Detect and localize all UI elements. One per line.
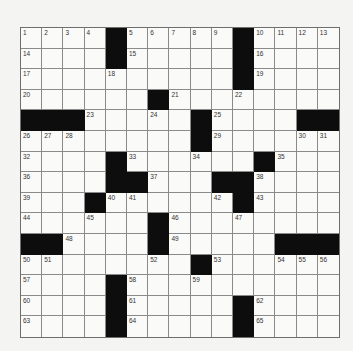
grid-cell[interactable]	[275, 275, 296, 296]
grid-cell[interactable]: 18	[106, 69, 127, 90]
grid-cell[interactable]	[191, 213, 212, 234]
grid-cell[interactable]: 56	[318, 255, 339, 276]
grid-cell[interactable]	[148, 275, 169, 296]
grid-cell[interactable]	[297, 69, 318, 90]
grid-cell[interactable]: 33	[127, 152, 148, 173]
grid-cell[interactable]	[191, 316, 212, 337]
grid-cell[interactable]	[318, 193, 339, 214]
grid-cell[interactable]	[191, 193, 212, 214]
grid-cell[interactable]	[148, 296, 169, 317]
grid-cell[interactable]	[212, 296, 233, 317]
grid-cell[interactable]	[233, 234, 254, 255]
grid-cell[interactable]	[169, 69, 190, 90]
grid-cell[interactable]	[297, 193, 318, 214]
grid-cell[interactable]	[233, 110, 254, 131]
grid-cell[interactable]	[106, 213, 127, 234]
grid-cell[interactable]	[127, 90, 148, 111]
grid-cell[interactable]	[169, 296, 190, 317]
grid-cell[interactable]	[275, 110, 296, 131]
grid-cell[interactable]: 63	[21, 316, 42, 337]
grid-cell[interactable]: 51	[42, 255, 63, 276]
grid-cell[interactable]	[233, 131, 254, 152]
grid-cell[interactable]	[191, 172, 212, 193]
grid-cell[interactable]	[212, 316, 233, 337]
grid-cell[interactable]	[127, 131, 148, 152]
grid-cell[interactable]	[254, 275, 275, 296]
grid-cell[interactable]	[212, 275, 233, 296]
grid-cell[interactable]	[275, 213, 296, 234]
grid-cell[interactable]: 36	[21, 172, 42, 193]
grid-cell[interactable]	[297, 152, 318, 173]
grid-cell[interactable]: 58	[127, 275, 148, 296]
grid-cell[interactable]	[42, 172, 63, 193]
grid-cell[interactable]	[254, 255, 275, 276]
grid-cell[interactable]: 34	[191, 152, 212, 173]
grid-cell[interactable]: 16	[254, 49, 275, 70]
grid-cell[interactable]: 46	[169, 213, 190, 234]
grid-cell[interactable]	[297, 275, 318, 296]
grid-cell[interactable]	[169, 316, 190, 337]
grid-cell[interactable]	[275, 296, 296, 317]
grid-cell[interactable]: 20	[21, 90, 42, 111]
grid-cell[interactable]	[275, 316, 296, 337]
grid-cell[interactable]	[42, 193, 63, 214]
grid-cell[interactable]	[42, 316, 63, 337]
grid-cell[interactable]	[191, 234, 212, 255]
grid-cell[interactable]	[106, 255, 127, 276]
grid-cell[interactable]	[169, 152, 190, 173]
grid-cell[interactable]: 15	[127, 49, 148, 70]
grid-cell[interactable]: 17	[21, 69, 42, 90]
grid-cell[interactable]	[318, 90, 339, 111]
grid-cell[interactable]	[254, 234, 275, 255]
grid-cell[interactable]	[148, 131, 169, 152]
grid-cell[interactable]: 59	[191, 275, 212, 296]
grid-cell[interactable]	[63, 316, 84, 337]
grid-cell[interactable]	[297, 296, 318, 317]
grid-cell[interactable]: 55	[297, 255, 318, 276]
grid-cell[interactable]: 45	[85, 213, 106, 234]
grid-cell[interactable]	[318, 316, 339, 337]
grid-cell[interactable]	[212, 49, 233, 70]
grid-cell[interactable]	[42, 69, 63, 90]
grid-cell[interactable]: 54	[275, 255, 296, 276]
grid-cell[interactable]: 53	[212, 255, 233, 276]
grid-cell[interactable]: 28	[63, 131, 84, 152]
grid-cell[interactable]	[148, 316, 169, 337]
grid-cell[interactable]	[275, 131, 296, 152]
grid-cell[interactable]	[254, 110, 275, 131]
grid-cell[interactable]	[275, 193, 296, 214]
grid-cell[interactable]	[233, 255, 254, 276]
grid-cell[interactable]	[148, 69, 169, 90]
grid-cell[interactable]	[275, 172, 296, 193]
grid-cell[interactable]: 1	[21, 28, 42, 49]
grid-cell[interactable]	[42, 49, 63, 70]
grid-cell[interactable]	[106, 131, 127, 152]
grid-cell[interactable]: 12	[297, 28, 318, 49]
grid-cell[interactable]: 41	[127, 193, 148, 214]
grid-cell[interactable]	[297, 90, 318, 111]
grid-cell[interactable]	[275, 69, 296, 90]
grid-cell[interactable]: 6	[148, 28, 169, 49]
grid-cell[interactable]	[169, 193, 190, 214]
grid-cell[interactable]	[233, 152, 254, 173]
grid-cell[interactable]	[63, 296, 84, 317]
grid-cell[interactable]	[106, 234, 127, 255]
grid-cell[interactable]: 60	[21, 296, 42, 317]
grid-cell[interactable]	[212, 234, 233, 255]
grid-cell[interactable]: 38	[254, 172, 275, 193]
grid-cell[interactable]: 65	[254, 316, 275, 337]
grid-cell[interactable]	[106, 110, 127, 131]
grid-cell[interactable]	[63, 90, 84, 111]
grid-cell[interactable]	[297, 316, 318, 337]
grid-cell[interactable]: 40	[106, 193, 127, 214]
grid-cell[interactable]: 8	[191, 28, 212, 49]
grid-cell[interactable]	[63, 152, 84, 173]
grid-cell[interactable]	[169, 110, 190, 131]
grid-cell[interactable]: 35	[275, 152, 296, 173]
grid-cell[interactable]	[169, 275, 190, 296]
grid-cell[interactable]	[85, 69, 106, 90]
grid-cell[interactable]	[254, 131, 275, 152]
grid-cell[interactable]	[318, 172, 339, 193]
grid-cell[interactable]	[85, 49, 106, 70]
grid-cell[interactable]	[85, 316, 106, 337]
